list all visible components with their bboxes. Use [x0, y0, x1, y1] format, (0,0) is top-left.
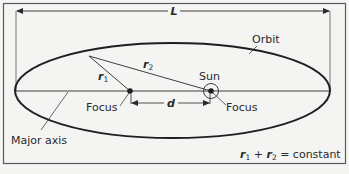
focus-right-leader	[213, 93, 226, 105]
r2-line	[89, 56, 211, 91]
focus-left-label: Focus	[86, 101, 118, 114]
distance-label: d	[167, 97, 175, 110]
equation-label: r1 + r2 = constant	[240, 148, 341, 162]
orbit-ellipse	[15, 43, 330, 138]
orbit-label: Orbit	[252, 33, 280, 46]
r1-label: r1	[98, 70, 108, 84]
diagram-canvas: L r1 r2 Focus Sun Focus d Orbit Major ax…	[0, 0, 349, 174]
focus-dot-left	[127, 88, 133, 94]
distance-dimension: d	[131, 94, 210, 110]
r2-label: r2	[143, 58, 153, 72]
focus-left-leader	[120, 93, 129, 106]
focus-dot-right	[208, 88, 214, 94]
length-label: L	[170, 5, 177, 18]
length-dimension: L	[16, 5, 330, 91]
focus-right-label: Focus	[226, 101, 258, 114]
sun-label: Sun	[199, 70, 220, 83]
orbit-diagram: L r1 r2 Focus Sun Focus d Orbit Major ax…	[0, 0, 349, 174]
r1-line	[89, 56, 130, 91]
major-axis-label: Major axis	[11, 134, 67, 147]
